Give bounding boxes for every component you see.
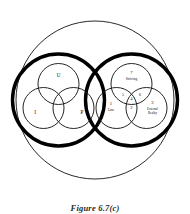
figure-caption: Figure 6.7(c) xyxy=(0,203,190,213)
left-label-left: I xyxy=(34,109,36,115)
right-label-overlap-5: 5 xyxy=(122,93,124,97)
right-label-overlap-6: 6 xyxy=(139,93,141,97)
right-label-right-word-line2: Reality xyxy=(148,111,158,115)
right-label-left-word: Law xyxy=(108,108,115,112)
left-label-right: P xyxy=(81,109,84,115)
right-label-right-word-line1: External xyxy=(147,107,158,111)
venn-diagram-figure: U I P 7 Striving 1 Law 3 External Realit… xyxy=(0,0,190,214)
outer-boundary-circle xyxy=(16,21,174,179)
left-label-top: U xyxy=(57,72,61,78)
right-label-top-word: Striving xyxy=(126,77,138,81)
right-label-center-4: 4 xyxy=(131,97,133,101)
figure-container: U I P 7 Striving 1 Law 3 External Realit… xyxy=(0,0,190,214)
